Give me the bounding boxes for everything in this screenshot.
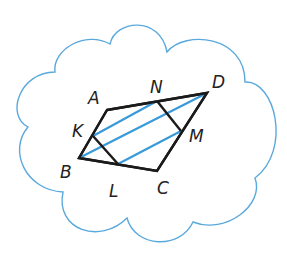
label-d: D	[212, 72, 225, 92]
cloud-outline	[17, 25, 276, 242]
label-m: M	[189, 126, 204, 146]
label-l: L	[109, 181, 118, 201]
label-b: B	[60, 162, 72, 182]
label-c: C	[157, 178, 169, 198]
label-n: N	[150, 77, 163, 97]
label-k: K	[72, 121, 85, 141]
label-a: A	[87, 88, 100, 108]
diagram-canvas: A N D K M B L C	[0, 0, 287, 255]
